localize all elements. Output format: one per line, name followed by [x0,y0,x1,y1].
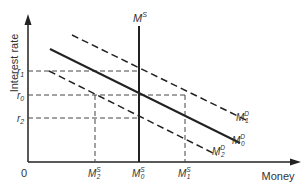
svg-text:MS: MS [133,11,147,24]
demand-curve-m0d [50,49,240,143]
demand-curve-m1d [72,35,250,122]
demand-m0d-label: MD0 [232,133,245,147]
svg-text:MS0: MS0 [132,166,145,180]
demand-curve-m2d [49,71,217,155]
svg-text:MS2: MS2 [88,166,101,180]
svg-text:r0: r0 [17,90,24,102]
svg-text:r2: r2 [17,113,24,125]
rate-r1-label: r1 [17,66,24,78]
x-axis-arrow-icon [290,159,301,166]
svg-text:MD2: MD2 [212,144,225,158]
rate-r2-label: r2 [17,113,24,125]
y-axis-arrow-icon [25,14,32,25]
svg-text:MS1: MS1 [178,166,191,180]
supply-top-label: MS [133,11,147,24]
svg-text:MD1: MD1 [236,110,249,124]
demand-m2d-label: MD2 [212,144,225,158]
demand-m1d-label: MD1 [236,110,249,124]
axes [25,14,302,166]
origin-label: 0 [21,167,27,179]
supply-m2-label: MS2 [88,166,101,180]
reference-lines [28,71,185,162]
y-axis-label: Interest rate [8,34,20,93]
svg-text:MD0: MD0 [232,133,245,147]
supply-m1-label: MS1 [178,166,191,180]
rate-r0-label: r0 [17,90,24,102]
supply-m0-label: MS0 [132,166,145,180]
x-axis-label: Money [261,170,295,182]
svg-text:r1: r1 [17,66,24,78]
money-market-diagram: Interest rate Money 0 r1 r0 r2 MS MS2 MS… [0,0,305,188]
